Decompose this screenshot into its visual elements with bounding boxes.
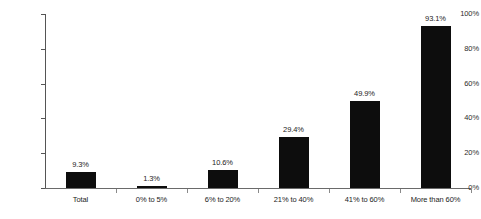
y-axis-tick [41,153,45,154]
bar-value-label: 9.3% [51,161,111,169]
bar [208,170,238,188]
y-axis-tick [41,14,45,15]
x-axis-tick [187,189,188,193]
bar [137,186,167,188]
x-axis-tick [400,189,401,193]
x-axis-tick [471,189,472,193]
bar [350,101,380,188]
y-axis-tick [41,49,45,50]
x-axis-tick [329,189,330,193]
bar-value-label: 29.4% [264,126,324,134]
y-axis-tick [41,118,45,119]
bar [421,26,451,188]
x-axis-tick [258,189,259,193]
bar-value-label: 1.3% [122,175,182,183]
bar-value-label: 49.9% [335,90,395,98]
bar [66,172,96,188]
bar [279,137,309,188]
y-axis-line [45,14,46,189]
x-axis-tick [116,189,117,193]
bar-value-label: 10.6% [193,159,253,167]
y-axis-tick [41,84,45,85]
bar-value-label: 93.1% [406,15,466,23]
x-axis-category-label: More than 60% [391,195,481,204]
y-axis-tick [41,188,45,189]
